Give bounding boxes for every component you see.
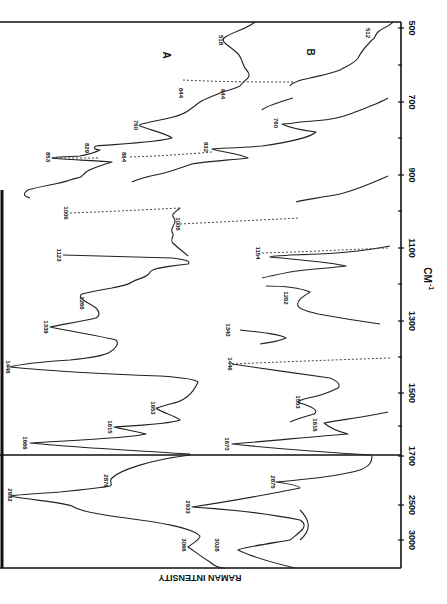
trace-b-label: B [305,48,316,55]
svg-text:1262: 1262 [283,291,289,305]
svg-text:760: 760 [133,120,139,131]
svg-text:1615: 1615 [107,420,113,434]
svg-text:829: 829 [84,143,90,154]
svg-text:3066: 3066 [181,538,187,552]
svg-text:1006: 1006 [63,206,69,220]
svg-text:1670: 1670 [224,437,230,451]
trace-a-label: A [161,51,172,58]
svg-text:1340: 1340 [225,323,231,337]
svg-text:1653: 1653 [150,401,156,415]
svg-text:512: 512 [365,28,371,39]
svg-text:1123: 1123 [56,248,62,262]
trace-a-high [10,455,225,568]
svg-text:1553: 1553 [295,395,301,409]
svg-text:1700: 1700 [407,446,417,466]
trace-a-mid [70,208,180,213]
svg-text:1339: 1339 [43,320,49,334]
trace-b-link-1154 [262,248,388,253]
y-axis-title: RAMAN INTENSITY [159,573,242,583]
svg-text:CM: CM [422,267,433,283]
svg-text:1666: 1666 [22,436,28,450]
raman-spectrum-chart: 500 700 900 1100 1300 1500 1700 2500 300… [0,0,447,604]
svg-text:2876: 2876 [103,474,109,488]
svg-text:3028: 3028 [214,538,220,552]
svg-text:1446: 1446 [5,360,11,374]
svg-text:1154: 1154 [255,246,261,260]
svg-text:760: 760 [273,118,279,129]
trace-b-link-1446 [232,358,390,364]
svg-text:900: 900 [407,167,417,182]
svg-text:518: 518 [218,35,224,46]
svg-text:3000: 3000 [407,530,417,550]
svg-text:1300: 1300 [407,311,417,331]
trace-b-mid-2 [232,364,388,455]
svg-text:-1: -1 [428,284,435,290]
svg-text:500: 500 [407,20,417,35]
svg-text:864: 864 [121,152,127,163]
trace-b-low [132,22,393,182]
peak-labels-b: 512 644 760 832 864 1006 1154 1262 1340 … [121,28,371,552]
svg-text:832: 832 [203,142,209,153]
svg-text:1616: 1616 [312,418,318,432]
svg-text:2933: 2933 [185,500,191,514]
svg-text:644: 644 [178,88,184,99]
svg-text:1100: 1100 [407,238,417,258]
peak-labels-a: 518 644 760 829 853 1006 1123 1266 1339 … [5,35,224,552]
svg-text:1266: 1266 [79,296,85,310]
svg-text:1446: 1446 [227,357,233,371]
x-axis-title: CM -1 [422,267,435,290]
trace-b-link-864 [130,152,212,157]
svg-text:644: 644 [220,89,226,100]
svg-text:2500: 2500 [407,495,417,515]
trace-b-mid [240,176,390,344]
svg-text:2932: 2932 [7,488,13,502]
trace-a-low [24,22,255,198]
svg-text:853: 853 [45,152,51,163]
trace-b-link-1006 [180,218,300,224]
svg-text:2875: 2875 [270,475,276,489]
trace-a-mid-2 [10,208,198,454]
x-axis-tick-labels: 500 700 900 1100 1300 1500 1700 2500 300… [407,20,417,550]
svg-text:700: 700 [407,94,417,109]
svg-text:1500: 1500 [407,383,417,403]
svg-text:1006: 1006 [175,217,181,231]
trace-b-link-644 [183,80,294,82]
